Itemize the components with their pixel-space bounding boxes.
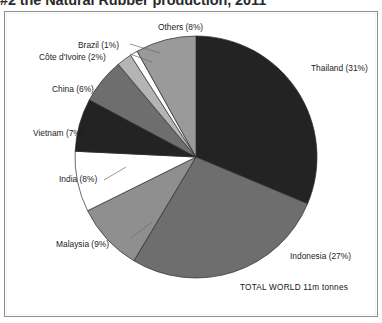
slice-label: Others (8%) [158,22,203,32]
pie-svg [0,0,382,323]
slice-label: India (8%) [59,174,97,184]
pie-chart [0,0,382,323]
slice-label: Indonesia (27%) [290,251,351,261]
slice-label: Malaysia (9%) [56,239,109,249]
slice-label: China (6%) [52,84,94,94]
slice-label: Côte d'Ivoire (2%) [39,52,106,62]
total-annotation: TOTAL WORLD 11m tonnes [240,283,348,292]
slice-label: Brazil (1%) [78,40,119,50]
chart-figure: #2 the Natural Rubber production, 2011 T… [0,0,382,323]
pie-slices [75,36,317,278]
slice-label: Thailand (31%) [311,63,368,73]
slice-label: Vietnam (7%) [33,128,84,138]
